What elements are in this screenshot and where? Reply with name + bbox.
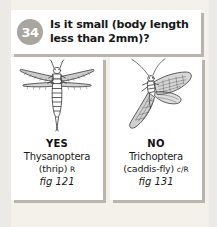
common-name: (thrip) R [39, 163, 75, 174]
question-text: Is it small (body length less than 2mm)? [50, 18, 189, 46]
key-page: 34 Is it small (body length less than 2m… [0, 0, 217, 227]
answer-card-yes[interactable]: YES Thysanoptera (thrip) R fig 121 [11, 57, 103, 200]
common-name: (caddis-fly) c/R [123, 163, 188, 174]
taxon-name: Trichoptera [129, 151, 183, 162]
question-number-badge: 34 [17, 19, 43, 45]
answer-card-no[interactable]: NO Trichoptera (caddis-fly) c/R fig 131 [110, 57, 202, 200]
figure-reference: fig 121 [39, 176, 74, 187]
caddisfly-illustration [110, 57, 202, 137]
thrips-illustration [11, 57, 103, 137]
frequency-abbr: c/R [177, 165, 189, 174]
answer-cards: YES Thysanoptera (thrip) R fig 121 [11, 57, 207, 205]
verdict-label: NO [147, 138, 164, 149]
frequency-abbr: R [70, 165, 75, 174]
verdict-label: YES [46, 138, 68, 149]
common-name-text: (thrip) [39, 163, 70, 174]
question-line-2: less than 2mm)? [50, 32, 189, 46]
common-name-text: (caddis-fly) [123, 163, 177, 174]
question-line-1: Is it small (body length [50, 18, 189, 32]
question-card: 34 Is it small (body length less than 2m… [11, 10, 201, 54]
taxon-name: Thysanoptera [24, 151, 90, 162]
figure-reference: fig 131 [138, 176, 173, 187]
